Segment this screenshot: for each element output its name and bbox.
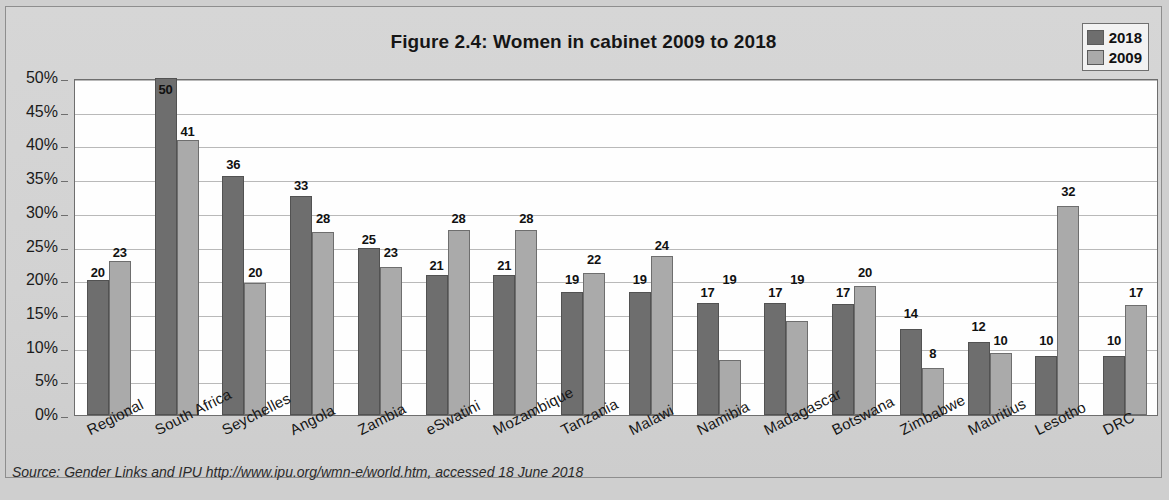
bar-2009-mozambique <box>515 230 537 415</box>
bar-2009-angola <box>312 232 334 415</box>
bar-2009-regional <box>109 261 131 415</box>
y-axis-tick-mark <box>61 114 68 115</box>
bar-value-label: 10 <box>1107 333 1121 348</box>
figure-frame: Figure 2.4: Women in cabinet 2009 to 201… <box>5 6 1162 478</box>
bar-2018-madagascar <box>764 303 786 415</box>
bar-value-label: 8 <box>929 346 936 361</box>
bar-2018-mauritius <box>968 342 990 415</box>
bar-2009-south-africa <box>177 140 199 415</box>
legend-item-2009: 2009 <box>1087 47 1142 67</box>
bar-value-label: 22 <box>587 252 601 267</box>
bar-value-label: 17 <box>700 285 714 300</box>
bar-value-label: 50 <box>158 82 172 97</box>
bar-2018-angola <box>290 196 312 415</box>
y-axis-tick-label: 15% <box>26 305 58 323</box>
y-axis-tick-mark <box>61 80 68 81</box>
bar-value-label: 19 <box>565 272 579 287</box>
bar-2009-seychelles <box>244 283 266 415</box>
y-axis-tick-mark <box>61 316 68 317</box>
bar-value-label: 12 <box>971 319 985 334</box>
y-axis-tick-label: 5% <box>35 372 58 390</box>
bar-2018-eswatini <box>426 275 448 415</box>
bar-value-label: 17 <box>836 285 850 300</box>
bar-value-label: 21 <box>497 258 511 273</box>
bar-2018-regional <box>87 280 109 415</box>
y-axis-tick-label: 40% <box>26 136 58 154</box>
bar-value-label: 20 <box>858 265 872 280</box>
y-axis-tick-label: 0% <box>35 406 58 424</box>
y-axis-tick-label: 30% <box>26 204 58 222</box>
bar-2018-mozambique <box>493 275 515 415</box>
bar-value-label: 17 <box>1129 285 1143 300</box>
y-axis-tick-mark <box>61 417 68 418</box>
y-axis-tick-label: 45% <box>26 103 58 121</box>
gridline <box>75 147 1157 148</box>
y-axis-tick-label: 10% <box>26 339 58 357</box>
bar-value-label: 25 <box>362 232 376 247</box>
legend-swatch-2009 <box>1087 50 1104 65</box>
bar-value-label: 23 <box>113 245 127 260</box>
y-axis-tick-mark <box>61 350 68 351</box>
bar-2018-seychelles <box>222 176 244 415</box>
bar-value-label: 28 <box>519 211 533 226</box>
y-axis-tick-mark <box>61 147 68 148</box>
bar-2018-namibia <box>697 303 719 415</box>
bar-value-label: 28 <box>316 211 330 226</box>
y-axis-tick-label: 35% <box>26 170 58 188</box>
bar-value-label: 20 <box>248 265 262 280</box>
y-axis-tick-label: 20% <box>26 271 58 289</box>
page-title: Figure 2.4: Women in cabinet 2009 to 201… <box>6 31 1161 53</box>
y-axis-tick-mark <box>61 282 68 283</box>
bar-value-label: 33 <box>294 178 308 193</box>
bar-value-label: 28 <box>451 211 465 226</box>
y-axis-tick-mark <box>61 249 68 250</box>
y-axis-tick-label: 50% <box>26 69 58 87</box>
bar-value-label: 19 <box>722 272 736 287</box>
bar-value-label: 10 <box>993 333 1007 348</box>
bar-value-label: 36 <box>226 157 240 172</box>
bar-value-label: 19 <box>790 272 804 287</box>
bar-value-label: 32 <box>1061 184 1075 199</box>
legend-label-2018: 2018 <box>1109 30 1142 45</box>
bar-2009-botswana <box>854 286 876 415</box>
bar-value-label: 20 <box>91 265 105 280</box>
y-axis-tick-label: 25% <box>26 238 58 256</box>
bar-2009-zambia <box>380 267 402 415</box>
bar-value-label: 10 <box>1039 333 1053 348</box>
bar-2018-south-africa <box>155 78 177 415</box>
bar-2009-lesotho <box>1057 206 1079 415</box>
plot-area: 2023504136203328252321282128192219241719… <box>74 79 1158 416</box>
bar-2009-drc <box>1125 305 1147 415</box>
legend-label-2009: 2009 <box>1109 50 1142 65</box>
y-axis-tick-mark <box>61 215 68 216</box>
bar-2018-malawi <box>629 292 651 415</box>
bar-2009-eswatini <box>448 230 470 415</box>
chart-legend: 2018 2009 <box>1082 23 1149 71</box>
legend-swatch-2018 <box>1087 30 1104 45</box>
bar-2009-malawi <box>651 256 673 415</box>
gridline <box>75 114 1157 115</box>
bar-2018-lesotho <box>1035 356 1057 415</box>
bar-value-label: 41 <box>180 124 194 139</box>
bar-value-label: 14 <box>904 306 918 321</box>
y-axis-tick-mark <box>61 383 68 384</box>
bar-value-label: 19 <box>633 272 647 287</box>
bar-2018-zimbabwe <box>900 329 922 415</box>
source-caption: Source: Gender Links and IPU http://www.… <box>12 464 583 480</box>
bar-2018-drc <box>1103 356 1125 415</box>
bar-2009-tanzania <box>583 273 605 415</box>
bar-value-label: 17 <box>768 285 782 300</box>
legend-item-2018: 2018 <box>1087 27 1142 47</box>
y-axis-tick-mark <box>61 181 68 182</box>
bar-value-label: 23 <box>384 245 398 260</box>
gridline <box>75 80 1157 81</box>
y-axis: 0%5%10%15%20%25%30%35%40%45%50% <box>6 79 68 417</box>
bar-2018-zambia <box>358 248 380 415</box>
bar-value-label: 24 <box>655 238 669 253</box>
bar-value-label: 21 <box>429 258 443 273</box>
